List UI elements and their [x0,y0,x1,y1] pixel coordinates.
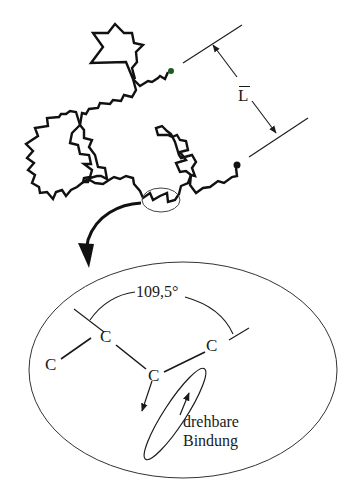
bonds [61,309,249,372]
atom-c2: C [100,328,111,345]
zoom-arrow [78,203,141,268]
atom-c4: C [206,337,217,354]
distance-arrow-down [252,101,276,133]
reference-line-bottom [249,118,308,157]
atom-c3: C [148,367,159,384]
atom-c1: C [45,356,56,373]
distance-arrow-up [213,45,237,77]
polymer-chain-diagram: L 109,5° C C C C drehbare Bindung [0,0,351,489]
bond-stub-right [229,328,249,340]
end-to-end-length-label: L [238,87,248,104]
polymer-chain [26,24,237,202]
rotation-arrow-down [142,381,152,411]
reference-line-top [183,25,242,63]
chain-end-top-dot [168,68,174,74]
bond-c1-c2 [61,338,91,359]
rotatable-bond-label-line1: drehbare [183,413,239,431]
bond-angle-label: 109,5° [135,284,179,300]
rotation-arrow-up [180,393,189,415]
diagram-graphics [0,0,351,489]
chain-end-bottom-dot [234,162,241,169]
rotatable-bond-label-line2: Bindung [183,432,238,450]
bond-c2-c3 [116,345,146,369]
